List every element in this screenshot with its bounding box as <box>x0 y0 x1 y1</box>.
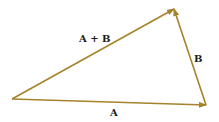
vector-a-arrow <box>12 99 206 105</box>
label-b: B <box>194 53 202 64</box>
label-sum: A + B <box>78 33 111 44</box>
vector-diagram: A + B B A <box>0 0 219 122</box>
vector-sum-arrow <box>12 9 174 99</box>
label-a: A <box>109 107 118 118</box>
